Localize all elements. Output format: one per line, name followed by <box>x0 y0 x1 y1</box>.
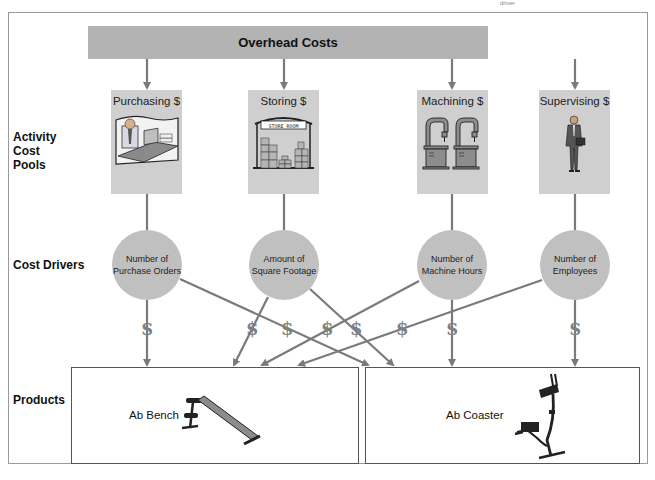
overhead-costs-label: Overhead Costs <box>238 35 338 50</box>
product-label: Ab Bench <box>129 409 179 421</box>
pool-label: Supervising $ <box>539 95 610 107</box>
driver-square-footage: Amount ofSquare Footage <box>249 230 319 300</box>
dollar-sign-icon: $ <box>569 318 582 339</box>
pool-label: Purchasing $ <box>111 95 182 107</box>
dollar-sign-icon: $ <box>396 318 409 339</box>
pool-machining: Machining $ <box>417 90 488 194</box>
product-label: Ab Coaster <box>446 409 504 421</box>
dollar-sign-icon: $ <box>446 318 459 339</box>
svg-text:STORE ROOM: STORE ROOM <box>268 123 298 129</box>
row-label-products: Products <box>13 393 65 407</box>
pool-label: Storing $ <box>248 95 319 107</box>
overhead-costs-bar: Overhead Costs <box>88 26 488 59</box>
dollar-sign-icon: $ <box>281 318 294 339</box>
driver-purchase-orders: Number ofPurchase Orders <box>112 230 182 300</box>
businessman-icon <box>542 112 607 174</box>
store-room-icon: STORE ROOM <box>251 112 316 174</box>
dollar-sign-icon: $ <box>141 318 154 339</box>
product-ab-bench: Ab Bench <box>71 367 359 464</box>
row-label-cost-drivers: Cost Drivers <box>13 258 84 272</box>
dollar-sign-icon: $ <box>350 318 363 339</box>
ab-bench-icon <box>182 388 262 446</box>
row-label-activity-cost-pools: Activity Cost Pools <box>13 130 56 172</box>
pool-label: Machining $ <box>417 95 488 107</box>
product-ab-coaster: Ab Coaster <box>365 367 640 464</box>
ab-coaster-icon <box>511 370 581 462</box>
office-worker-icon <box>114 112 179 174</box>
dollar-sign-icon: $ <box>246 318 259 339</box>
pool-purchasing: Purchasing $ <box>111 90 182 194</box>
driver-employees: Number ofEmployees <box>540 230 610 300</box>
pool-storing: Storing $ STORE ROOM <box>248 90 319 194</box>
pool-supervising: Supervising $ <box>539 90 610 194</box>
dollar-sign-icon: $ <box>321 318 334 339</box>
drill-press-icon <box>420 112 485 174</box>
driver-machine-hours: Number ofMachine Hours <box>417 230 487 300</box>
